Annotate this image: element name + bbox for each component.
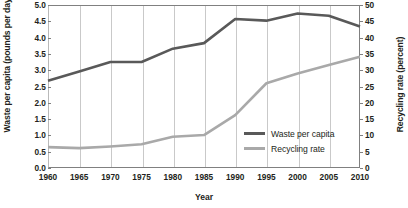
tick-mark bbox=[360, 87, 363, 88]
x-axis-title: Year bbox=[48, 192, 360, 202]
legend-item: Waste per capita bbox=[244, 126, 334, 141]
tick-mark bbox=[360, 119, 363, 120]
legend-label: Waste per capita bbox=[271, 129, 334, 139]
y-axis-right-tick-label: 5 bbox=[365, 147, 389, 157]
tick-mark bbox=[360, 5, 363, 6]
tick-mark bbox=[360, 54, 363, 55]
y-axis-left-tick-label: 4.0 bbox=[22, 33, 46, 43]
y-axis-left-tick-label: 0.5 bbox=[22, 147, 46, 157]
tick-mark bbox=[360, 38, 363, 39]
y-axis-right-tick-label: 20 bbox=[365, 98, 389, 108]
y-axis-right-tick-label: 50 bbox=[365, 0, 389, 10]
y-axis-right-tick-label: 40 bbox=[365, 33, 389, 43]
tick-mark bbox=[360, 103, 363, 104]
tick-mark bbox=[48, 168, 51, 169]
y-axis-left-tick-label: 3.0 bbox=[22, 65, 46, 75]
y-axis-right-tick-label: 15 bbox=[365, 114, 389, 124]
legend-swatch bbox=[244, 132, 265, 135]
y-axis-left-tick-label: 3.5 bbox=[22, 49, 46, 59]
chart-figure: Waste per capita (pounds per day) Recycl… bbox=[0, 0, 408, 208]
x-axis-tick-label: 2010 bbox=[340, 172, 380, 182]
y-axis-right-tick-label: 30 bbox=[365, 65, 389, 75]
tick-mark bbox=[360, 168, 363, 169]
y-axis-right-tick-label: 35 bbox=[365, 49, 389, 59]
tick-mark bbox=[360, 70, 363, 71]
tick-mark bbox=[360, 152, 363, 153]
y-axis-left-title: Waste per capita (pounds per day) bbox=[0, 0, 14, 168]
legend-label: Recycling rate bbox=[271, 144, 325, 154]
chart-legend: Waste per capitaRecycling rate bbox=[244, 126, 334, 156]
y-axis-left-tick-label: 2.5 bbox=[22, 82, 46, 92]
y-axis-left-tick-label: 1.5 bbox=[22, 114, 46, 124]
y-axis-left-tick-label: 5.0 bbox=[22, 0, 46, 10]
legend-item: Recycling rate bbox=[244, 141, 334, 156]
y-axis-left-tick-label: 4.5 bbox=[22, 16, 46, 26]
y-axis-left-tick-label: 2.0 bbox=[22, 98, 46, 108]
y-axis-left-tick-label: 1.0 bbox=[22, 130, 46, 140]
y-axis-right-tick-label: 25 bbox=[365, 82, 389, 92]
tick-mark bbox=[360, 21, 363, 22]
y-axis-right-title: Recycling rate (percent) bbox=[393, 0, 407, 172]
y-axis-right-tick-label: 45 bbox=[365, 16, 389, 26]
tick-mark bbox=[360, 135, 363, 136]
legend-swatch bbox=[244, 147, 265, 150]
y-axis-right-tick-label: 10 bbox=[365, 130, 389, 140]
